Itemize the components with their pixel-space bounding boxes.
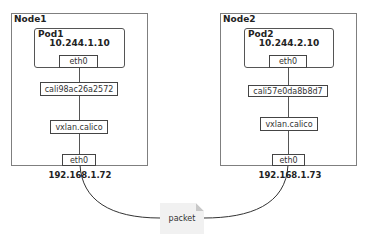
- node2-vxlan-interface: vxlan.calico: [260, 117, 318, 131]
- vxlan-to-eth2-link: [288, 131, 289, 154]
- node2-label: Node2: [223, 14, 256, 24]
- cali-to-vxlan1-link: [79, 96, 80, 120]
- node2-host-ip: 192.168.1.73: [250, 170, 330, 180]
- vxlan-to-eth1-link: [79, 134, 80, 154]
- packet-label: packet: [169, 214, 196, 223]
- cali-to-vxlan2-link: [288, 97, 289, 117]
- node1-cali-interface: cali98ac26a2572: [40, 82, 118, 96]
- node2-eth0-interface: eth0: [272, 154, 305, 166]
- pod1-eth0-interface: eth0: [59, 55, 98, 68]
- pod1-ip: 10.244.1.10: [34, 38, 125, 48]
- node1-eth0-interface: eth0: [62, 154, 96, 166]
- pod1-to-cali-link: [79, 68, 80, 82]
- packet-box: packet: [160, 203, 204, 234]
- node2-cali-interface: cali57e0da8b8d7: [248, 85, 328, 97]
- pod2-ip: 10.244.2.10: [244, 38, 334, 48]
- node1-label: Node1: [14, 14, 47, 24]
- pod2-to-cali-link: [288, 68, 289, 85]
- pod2-eth0-interface: eth0: [269, 55, 307, 68]
- node1-vxlan-interface: vxlan.calico: [50, 120, 108, 134]
- node1-host-ip: 192.168.1.72: [40, 170, 120, 180]
